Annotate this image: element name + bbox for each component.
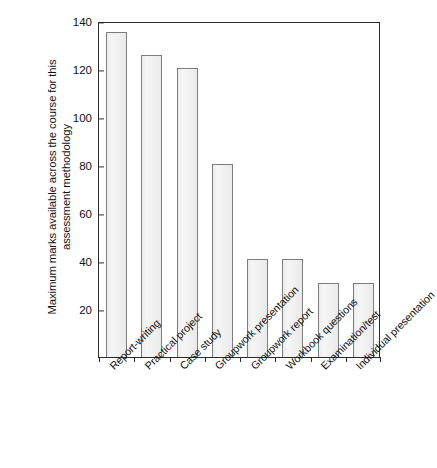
y-axis-tick-mark <box>99 166 104 167</box>
y-axis-tick-label: 20 <box>79 305 99 317</box>
y-axis-tick-mark <box>99 22 104 23</box>
bar <box>353 283 374 357</box>
y-axis-tick-label: 140 <box>73 17 99 29</box>
y-axis-tick-label: 120 <box>73 65 99 77</box>
y-axis-tick-label: 80 <box>79 161 99 173</box>
x-axis-tick-mark <box>380 357 381 362</box>
y-axis-tick-mark <box>99 70 104 71</box>
x-axis-tick-mark <box>346 357 347 362</box>
x-axis-tick-mark <box>205 357 206 362</box>
x-axis-tick-mark <box>99 357 100 362</box>
bar <box>212 164 233 357</box>
y-axis-tick-mark <box>99 118 104 119</box>
y-axis-tick-label: 40 <box>79 257 99 269</box>
y-axis-tick-label: 100 <box>73 113 99 125</box>
bar <box>106 32 127 357</box>
bar <box>247 259 268 357</box>
bar <box>177 68 198 357</box>
x-axis-tick-mark <box>240 357 241 362</box>
x-axis-tick-mark <box>311 357 312 362</box>
y-axis-tick-label: 60 <box>79 209 99 221</box>
y-axis-title-line-2: assessment methodology <box>59 124 74 250</box>
y-axis-title-line-1: Maximum marks available across the cours… <box>45 60 60 315</box>
bar <box>318 283 339 357</box>
bars-layer <box>99 23 379 357</box>
x-axis-tick-mark <box>134 357 135 362</box>
y-axis-tick-mark <box>99 310 104 311</box>
x-axis-tick-mark <box>275 357 276 362</box>
plot-area: 20406080100120140 <box>98 22 380 358</box>
x-axis-tick-mark <box>170 357 171 362</box>
y-axis-tick-mark <box>99 262 104 263</box>
y-axis-tick-mark <box>99 214 104 215</box>
bar <box>282 259 303 357</box>
bar <box>141 55 162 357</box>
